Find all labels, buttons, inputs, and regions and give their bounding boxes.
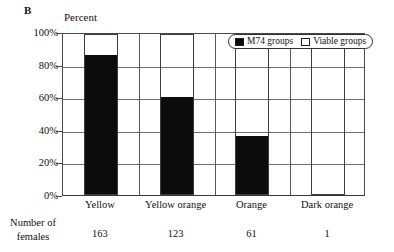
x-axis-tick-label: Yellow xyxy=(62,199,138,211)
x-axis-tick-label: Orange xyxy=(214,199,290,211)
filled-square-icon xyxy=(235,38,244,46)
y-axis-tick-label: 40% xyxy=(2,126,58,137)
y-axis-tick-labels: 100%80%60%40%20%0% xyxy=(0,33,58,196)
footer-title-line-2: females xyxy=(17,231,50,242)
stacked-bar[interactable] xyxy=(160,34,194,195)
legend-label: M74 groups xyxy=(247,37,293,47)
bar-column xyxy=(290,34,366,195)
y-axis-tick-label: 80% xyxy=(2,60,58,71)
number-of-females-value: 163 xyxy=(62,229,138,240)
panel-label: B xyxy=(24,5,31,16)
bar-column xyxy=(63,34,139,195)
stacked-bar[interactable] xyxy=(84,34,118,195)
x-axis-tick-label: Yellow orange xyxy=(138,199,214,211)
footer-title-line-1: Number of xyxy=(10,217,56,228)
y-axis-tick-label: 20% xyxy=(2,158,58,169)
bar-outline xyxy=(84,34,118,195)
y-axis-tick-label: 60% xyxy=(2,93,58,104)
stacked-bar[interactable] xyxy=(311,34,345,195)
legend-item[interactable]: M74 groups xyxy=(235,37,293,47)
x-axis-tick-label: Dark orange xyxy=(289,199,365,211)
bar-column xyxy=(139,34,215,195)
empty-square-icon xyxy=(301,38,310,46)
number-of-females-value: 1 xyxy=(289,229,365,240)
bar-outline xyxy=(235,34,269,195)
y-axis-title: Percent xyxy=(64,12,97,23)
chart-plot-area xyxy=(62,33,365,196)
bar-outline xyxy=(160,34,194,195)
number-of-females-value: 123 xyxy=(138,229,214,240)
y-axis-tick-label: 100% xyxy=(2,28,58,39)
legend-label: Viable groups xyxy=(313,37,366,47)
number-of-females-row: Number of females 163123611 xyxy=(0,216,394,250)
number-of-females-value: 61 xyxy=(214,229,290,240)
x-axis-tick-labels: YellowYellow orangeOrangeDark orange xyxy=(62,199,365,215)
legend-item[interactable]: Viable groups xyxy=(301,37,366,47)
number-of-females-label: Number of females xyxy=(6,216,60,244)
bar-column xyxy=(215,34,291,195)
y-axis-tick-label: 0% xyxy=(2,191,58,202)
y-axis-tick-mark xyxy=(56,196,62,197)
chart-legend: M74 groupsViable groups xyxy=(228,34,373,49)
stacked-bar[interactable] xyxy=(235,34,269,195)
bar-outline xyxy=(311,34,345,195)
